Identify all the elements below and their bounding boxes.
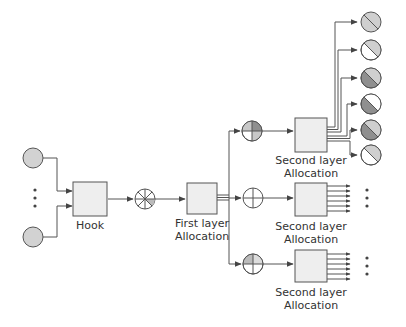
quartered-node-middle — [243, 188, 263, 208]
middle-output-ellipsis — [365, 188, 368, 207]
output-node-1 — [361, 12, 381, 32]
input-1-arrow — [43, 158, 72, 191]
second-layer-box-2 — [295, 183, 327, 216]
input-ellipsis — [33, 188, 36, 207]
quartered-node-top — [242, 121, 262, 141]
second-layer-3-label-line2: Allocation — [271, 299, 351, 312]
output-node-3 — [361, 68, 381, 88]
second-layer-box-3 — [295, 250, 327, 282]
hook-box — [73, 182, 107, 216]
input-node-n — [23, 227, 43, 247]
first-layer-box — [187, 183, 217, 214]
first-layer-label-line1: First layer — [170, 217, 234, 230]
second-layer-3-outputs — [327, 254, 350, 279]
hook-label: Hook — [70, 219, 110, 232]
second-layer-box-1 — [295, 118, 327, 152]
bottom-output-ellipsis — [365, 256, 368, 275]
second-layer-2-label-line1: Second layer — [271, 220, 351, 233]
second-layer-1-label-line1: Second layer — [271, 154, 351, 167]
output-node-5 — [361, 120, 381, 140]
second-layer-3-label-line1: Second layer — [271, 286, 351, 299]
second-layer-2-label-line2: Allocation — [271, 233, 351, 246]
second-layer-2-outputs — [327, 186, 350, 211]
input-node-1 — [23, 148, 43, 168]
quartered-node-bottom — [243, 254, 263, 274]
output-node-6 — [361, 145, 381, 165]
second-layer-1-label-line2: Allocation — [271, 167, 351, 180]
output-node-4 — [361, 94, 381, 114]
output-node-2 — [361, 40, 381, 60]
input-n-arrow — [43, 206, 72, 237]
first-layer-label-line2: Allocation — [170, 230, 234, 243]
wheel-icon — [135, 189, 155, 209]
